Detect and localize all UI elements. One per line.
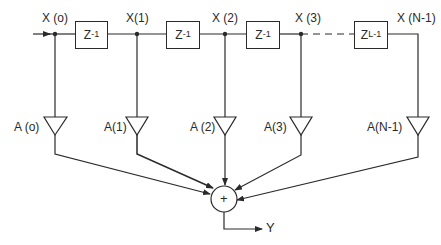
delay-base: Z <box>255 28 262 42</box>
delay-base: Z <box>361 28 368 42</box>
coef-label-a0: A (o) <box>14 121 39 133</box>
node-dot-2 <box>223 32 227 36</box>
signal-label-x3: X (3) <box>295 12 321 24</box>
delay-box-4: ZL-1 <box>354 21 388 49</box>
delay-base: Z <box>175 28 182 42</box>
delay-exponent: -1 <box>183 29 191 39</box>
gain-triangle-2 <box>214 117 236 135</box>
gain-triangle-3 <box>290 117 312 135</box>
coef-label-a3: A(3) <box>264 121 287 133</box>
delay-exponent: -1 <box>263 29 271 39</box>
delay-exponent: L-1 <box>368 29 381 39</box>
output-label-y: Y <box>266 222 275 234</box>
signal-label-x1: X(1) <box>126 12 149 24</box>
delay-box-3: Z-1 <box>246 21 280 49</box>
fir-filter-diagram: Z-1 Z-1 Z-1 ZL-1 X (o) X(1) X (2) X (3) … <box>0 0 441 245</box>
signal-label-x0: X (o) <box>42 12 68 24</box>
node-dot-3 <box>299 32 303 36</box>
coef-label-a1: A(1) <box>104 121 127 133</box>
coef-label-a2: A (2) <box>190 121 215 133</box>
signal-label-xn1: X (N-1) <box>397 12 436 24</box>
node-dot-0 <box>53 32 57 36</box>
coef-label-an1: A(N-1) <box>367 121 402 133</box>
gain-triangle-n1 <box>407 117 429 135</box>
delay-exponent: -1 <box>91 29 99 39</box>
node-dot-1 <box>135 32 139 36</box>
delay-box-1: Z-1 <box>75 21 108 49</box>
gain-triangle-0 <box>44 117 67 135</box>
gain-triangle-1 <box>126 117 148 135</box>
plus-sign: + <box>220 191 228 206</box>
signal-label-x2: X (2) <box>212 12 238 24</box>
output-arrow <box>224 212 262 229</box>
delay-box-2: Z-1 <box>166 21 200 49</box>
delay-base: Z <box>84 28 91 42</box>
